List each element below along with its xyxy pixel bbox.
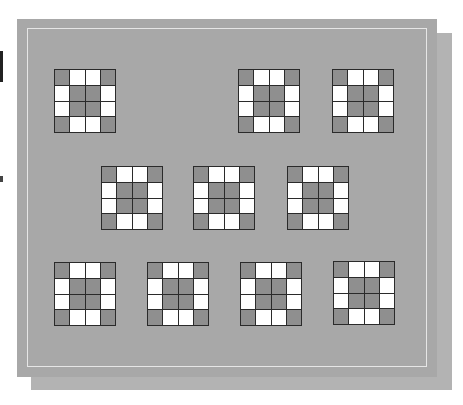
light-tile: [270, 117, 284, 132]
dark-tile: [285, 117, 299, 132]
dark-tile: [349, 278, 363, 293]
light-tile: [86, 263, 100, 278]
dark-tile: [240, 214, 254, 229]
dark-tile: [55, 117, 69, 132]
light-tile: [209, 214, 223, 229]
dark-tile: [209, 199, 223, 214]
dark-tile: [379, 70, 393, 85]
light-tile: [225, 167, 239, 182]
light-tile: [101, 86, 115, 101]
light-tile: [101, 102, 115, 117]
dark-tile: [101, 117, 115, 132]
light-tile: [117, 214, 131, 229]
dark-tile: [55, 263, 69, 278]
dark-tile: [86, 295, 100, 310]
dark-tile: [272, 295, 286, 310]
light-tile: [70, 117, 84, 132]
tile-grid: [54, 262, 116, 326]
dark-tile: [55, 310, 69, 325]
light-tile: [333, 102, 347, 117]
dark-tile: [334, 167, 348, 182]
dark-tile: [364, 102, 378, 117]
dark-tile: [272, 279, 286, 294]
light-tile: [163, 263, 177, 278]
light-tile: [70, 310, 84, 325]
light-tile: [333, 86, 347, 101]
light-tile: [365, 262, 379, 277]
dark-tile: [148, 167, 162, 182]
light-tile: [272, 263, 286, 278]
light-tile: [133, 214, 147, 229]
light-tile: [86, 117, 100, 132]
light-tile: [148, 183, 162, 198]
light-tile: [148, 295, 162, 310]
dark-tile: [334, 214, 348, 229]
light-tile: [101, 295, 115, 310]
light-tile: [194, 295, 208, 310]
dark-tile: [209, 183, 223, 198]
cropped-text-fragment: [0, 51, 3, 82]
dark-tile: [379, 117, 393, 132]
light-tile: [364, 70, 378, 85]
dark-tile: [287, 310, 301, 325]
light-tile: [209, 167, 223, 182]
dark-tile: [239, 70, 253, 85]
dark-tile: [194, 167, 208, 182]
light-tile: [102, 183, 116, 198]
dark-tile: [319, 183, 333, 198]
cropped-text-fragment: [0, 176, 3, 182]
light-tile: [55, 86, 69, 101]
light-tile: [256, 310, 270, 325]
dark-tile: [270, 102, 284, 117]
tile-grid: [333, 261, 395, 325]
dark-tile: [333, 70, 347, 85]
tile-grid: [193, 166, 255, 230]
dark-tile: [86, 279, 100, 294]
dark-tile: [365, 294, 379, 309]
dark-tile: [348, 102, 362, 117]
dark-tile: [334, 309, 348, 324]
tile-grid: [101, 166, 163, 230]
dark-tile: [133, 199, 147, 214]
light-tile: [256, 263, 270, 278]
dark-tile: [303, 183, 317, 198]
dark-tile: [334, 262, 348, 277]
light-tile: [349, 309, 363, 324]
dark-tile: [148, 310, 162, 325]
light-tile: [241, 279, 255, 294]
dark-tile: [303, 199, 317, 214]
dark-tile: [319, 199, 333, 214]
light-tile: [148, 279, 162, 294]
light-tile: [239, 102, 253, 117]
dark-tile: [117, 183, 131, 198]
light-tile: [287, 295, 301, 310]
dark-tile: [179, 295, 193, 310]
light-tile: [163, 310, 177, 325]
light-tile: [349, 262, 363, 277]
dark-tile: [148, 214, 162, 229]
dark-tile: [86, 102, 100, 117]
dark-tile: [365, 278, 379, 293]
light-tile: [288, 183, 302, 198]
light-tile: [117, 167, 131, 182]
dark-tile: [70, 102, 84, 117]
dark-tile: [380, 262, 394, 277]
light-tile: [194, 199, 208, 214]
light-tile: [86, 70, 100, 85]
dark-tile: [86, 86, 100, 101]
dark-tile: [133, 183, 147, 198]
light-tile: [55, 295, 69, 310]
light-tile: [86, 310, 100, 325]
dark-tile: [364, 86, 378, 101]
tile-grid: [238, 69, 300, 133]
dark-tile: [194, 263, 208, 278]
dark-tile: [256, 295, 270, 310]
dark-tile: [70, 295, 84, 310]
light-tile: [270, 70, 284, 85]
light-tile: [55, 279, 69, 294]
dark-tile: [288, 167, 302, 182]
dark-tile: [55, 70, 69, 85]
dark-tile: [102, 214, 116, 229]
light-tile: [285, 86, 299, 101]
dark-tile: [380, 309, 394, 324]
